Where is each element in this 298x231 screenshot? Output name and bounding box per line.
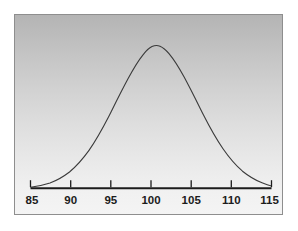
x-tick-label-6: 115 <box>260 194 279 206</box>
normal-distribution-curve <box>31 46 272 188</box>
bell-curve-plot: 85 90 95 100 105 110 115 <box>15 15 282 214</box>
x-tick-label-1: 90 <box>64 194 77 206</box>
x-axis-tick-labels: 85 90 95 100 105 110 115 <box>26 194 280 206</box>
chart-panel: 85 90 95 100 105 110 115 <box>14 14 283 215</box>
x-tick-label-0: 85 <box>26 194 39 206</box>
x-tick-label-4: 105 <box>182 194 202 206</box>
figure-root: 85 90 95 100 105 110 115 <box>0 0 298 231</box>
x-tick-label-3: 100 <box>141 194 160 206</box>
x-axis-ticks <box>31 180 272 187</box>
x-tick-label-5: 110 <box>222 194 241 206</box>
x-tick-label-2: 95 <box>104 194 117 206</box>
